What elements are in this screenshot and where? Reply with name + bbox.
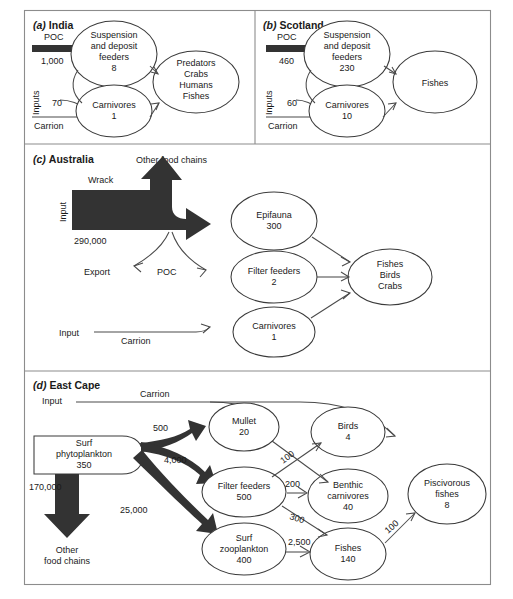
panel-c-wrack-value: 290,000	[74, 236, 107, 246]
panel-d-node-fishes-line1: Fishes	[335, 543, 362, 553]
panel-c-node-epi-line1: Epifauna	[256, 210, 292, 220]
panel-a-node-pred-line1: Predators	[176, 58, 216, 68]
panel-d-node-mullet-line1: Mullet	[232, 416, 257, 426]
panel-a-carrion-label: Carrion	[34, 121, 64, 131]
panel-c-poc-export-arrowhead	[134, 263, 143, 272]
panel-a-title: (a)India	[33, 19, 74, 31]
panel-d-other-food-chains-line2: food chains	[44, 556, 91, 566]
panel-b-poc-value: 460	[279, 56, 294, 66]
panel-d-node-benthic-line1: Benthic	[333, 480, 364, 490]
panel-c-input-label: Input	[58, 201, 68, 222]
figure-canvas: (a)India POC 1,000 Inputs 70 Carrion Sus…	[0, 0, 513, 599]
panel-a-node-carn-line1: Carnivores	[92, 100, 136, 110]
panel-c-carrion-label: Carrion	[121, 336, 151, 346]
panel-b-carrion-label: Carrion	[268, 121, 298, 131]
panel-a-node-pred-line4: Fishes	[183, 91, 210, 101]
panel-c-link-epifauna-fbc-head	[341, 257, 350, 266]
panel-c-link-carnivores-fbc	[311, 293, 350, 318]
panel-b-name: Scotland	[279, 19, 323, 31]
panel-a-inputs-label: Inputs	[31, 90, 41, 115]
panel-b-node-fish-line1: Fishes	[422, 78, 449, 88]
panel-a-poc-label: POC	[44, 32, 64, 42]
panel-a-node-sdf-line4: 8	[111, 63, 116, 73]
panel-d-node-zoo-line2: zooplankton	[220, 544, 269, 554]
panel-d-source-line3: 350	[76, 460, 91, 470]
food-web-figure: (a)India POC 1,000 Inputs 70 Carrion Sus…	[0, 0, 513, 599]
panel-c-node-fbc-line3: Crabs	[378, 281, 403, 291]
panel-c-carrion-input-label: Input	[59, 328, 80, 338]
panel-d-node-mullet-line2: 20	[239, 427, 249, 437]
panel-c-name: Australia	[49, 153, 94, 165]
panel-a-poc-value: 1,000	[41, 56, 64, 66]
panel-d-label-25000: 25,000	[120, 505, 148, 515]
panel-d-source-line1: Surf	[76, 438, 93, 448]
panel-a-letter: (a)	[33, 19, 46, 31]
panel-a-node-pred-line3: Humans	[179, 80, 213, 90]
panel-c-poc-filter-arrowhead	[197, 268, 206, 277]
panel-a-node-sdf-line2: and deposit	[91, 41, 138, 51]
panel-d-source-line2: phytoplankton	[56, 449, 112, 459]
panel-d-carrion-label: Carrion	[140, 389, 170, 399]
panel-a-name: India	[49, 19, 74, 31]
panel-c-node-filt-line2: 2	[271, 277, 276, 287]
panel-d-node-filt-line1: Filter feeders	[218, 481, 271, 491]
panel-c-node-epi-line2: 300	[266, 221, 281, 231]
panel-d-node-birds-line1: Birds	[338, 421, 359, 431]
panel-b-node-sdf-line2: and deposit	[324, 41, 371, 51]
panel-d-label-100-filter-birds: 100	[278, 449, 296, 466]
panel-d-title: (d)East Cape	[33, 379, 100, 391]
panel-d-label-2500: 2,500	[288, 537, 311, 547]
panel-c-letter: (c)	[33, 153, 46, 165]
panel-c-node-carn-line2: 1	[271, 332, 276, 342]
panel-d-label-200: 200	[285, 479, 300, 489]
panel-d-input-label: Input	[42, 396, 63, 406]
panel-c-export-label: Export	[84, 267, 111, 277]
panel-d-node-birds-line2: 4	[345, 432, 350, 442]
panel-d-node-pisc-line3: 8	[444, 500, 449, 510]
panel-a-70-label: 70	[52, 98, 62, 108]
panel-d-label-170000: 170,000	[29, 482, 62, 492]
panel-c-wrack-label: Wrack	[88, 175, 114, 185]
panel-b-inputs-label: Inputs	[264, 90, 274, 115]
panel-b-node-sdf-line1: Suspension	[323, 30, 370, 40]
panel-d-other-food-chains-line1: Other	[56, 545, 79, 555]
panel-d-node-benthic-line3: 40	[343, 502, 353, 512]
panel-c-node-fbc-line1: Fishes	[377, 259, 404, 269]
panel-d-letter: (d)	[33, 379, 47, 391]
panel-b-title: (b)Scotland	[263, 19, 324, 31]
panel-c-title: (c)Australia	[33, 153, 94, 165]
panel-b-node-sdf-line4: 230	[339, 63, 354, 73]
panel-c-node-filt-line1: Filter feeders	[248, 266, 301, 276]
panel-a-node-sdf-line1: Suspension	[90, 30, 137, 40]
panel-a-node-carn-line2: 1	[111, 111, 116, 121]
panel-d-node-pisc-line2: fishes	[435, 489, 459, 499]
panel-d-node-benthic-line2: carnivores	[327, 491, 369, 501]
panel-d-label-4000: 4,000	[164, 455, 187, 465]
panel-c-node-carn-line1: Carnivores	[252, 321, 296, 331]
panel-b-60-label: 60	[287, 98, 297, 108]
panel-a-node-pred-line2: Crabs	[184, 69, 209, 79]
panel-a-node-sdf-line3: feeders	[99, 52, 130, 62]
panel-d-node-pisc-line1: Piscivorous	[424, 478, 471, 488]
panel-d-name: East Cape	[49, 379, 100, 391]
panel-d-node-filt-line2: 500	[236, 492, 251, 502]
panel-d-label-500: 500	[153, 423, 168, 433]
panel-b-node-sdf-line3: feeders	[332, 52, 363, 62]
panel-c-poc-label: POC	[157, 267, 177, 277]
panel-b-poc-label: POC	[277, 32, 297, 42]
panel-b-node-carn-line1: Carnivores	[325, 100, 369, 110]
panel-b-letter: (b)	[263, 19, 277, 31]
panel-d-node-zoo-line3: 400	[236, 555, 251, 565]
panel-c-wrack-flow	[72, 156, 211, 240]
panel-d-label-100-fishes-pisc: 100	[383, 518, 401, 535]
panel-c-carrion-line	[94, 327, 210, 332]
panel-c-other-food-chains-label: Other food chains	[136, 155, 208, 165]
panel-d-node-zoo-line1: Surf	[236, 533, 253, 543]
panel-d-node-fishes-line2: 140	[340, 554, 355, 564]
panel-c-poc-export-line	[134, 232, 169, 266]
panel-c-node-fbc-line2: Birds	[380, 270, 401, 280]
panel-d-label-300: 300	[288, 511, 305, 525]
panel-b-node-carn-line2: 10	[342, 111, 352, 121]
